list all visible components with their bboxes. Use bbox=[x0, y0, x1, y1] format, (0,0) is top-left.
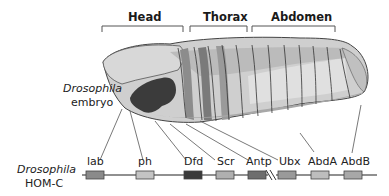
region-label-head: Head bbox=[128, 10, 161, 24]
gene-box-ph bbox=[136, 171, 154, 179]
gene-label-scr: Scr bbox=[217, 155, 235, 168]
gene-box-antp bbox=[248, 171, 266, 179]
complex-label-species: Drosophila bbox=[17, 163, 76, 176]
gene-label-ubx: Ubx bbox=[279, 155, 301, 168]
gene-box-lab bbox=[86, 171, 104, 179]
complex-label-text: HOM-C bbox=[25, 177, 63, 190]
gene-label-abdb: AbdB bbox=[341, 155, 370, 168]
embryo-label-species: Drosophila bbox=[63, 82, 122, 95]
gene-label-lab: lab bbox=[87, 155, 104, 168]
region-label-thorax: Thorax bbox=[203, 10, 248, 24]
region-brackets bbox=[102, 26, 335, 32]
embryo bbox=[103, 37, 368, 122]
gene-box-abdb bbox=[344, 171, 362, 179]
gene-label-dfd: Dfd bbox=[184, 155, 203, 168]
gene-box-ubx bbox=[278, 171, 296, 179]
gene-label-abda: AbdA bbox=[308, 155, 337, 168]
gene-box-dfd bbox=[184, 171, 202, 179]
gene-label-ph: ph bbox=[138, 155, 152, 168]
gene-box-abda bbox=[311, 171, 329, 179]
gene-label-antp: Antp bbox=[246, 155, 272, 168]
region-label-abdomen: Abdomen bbox=[271, 10, 332, 24]
gene-box-scr bbox=[216, 171, 234, 179]
embryo-label-text: embryo bbox=[71, 96, 113, 109]
